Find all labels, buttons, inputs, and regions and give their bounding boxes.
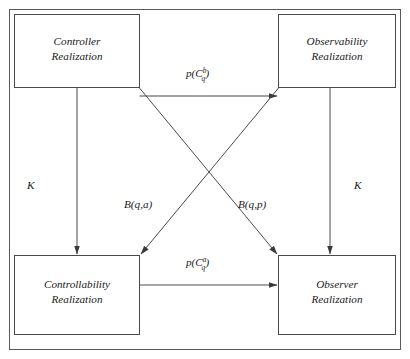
edge-label-controllability-to-observer: p(Caq) [185,255,210,272]
realization-diagram: Controller Realization Observability Rea… [0,0,410,359]
edge-label-p-close: ) [205,67,210,80]
node-observer-label-line1: Observer [316,278,358,290]
edge-label-controller-to-controllability: K [26,179,35,191]
node-controllability-label-line1: Controllability [44,278,110,290]
node-controllability-label-line2: Realization [51,293,103,305]
node-observer-label-line2: Realization [311,293,363,305]
diagram-canvas: Controller Realization Observability Rea… [0,0,410,359]
edge-label-controller-to-observer: B(q,p) [238,198,267,211]
edge-controller-to-observer [140,88,278,254]
edge-observability-to-controllability [141,88,279,254]
edge-label-observability-to-controllability: B(q,a) [124,198,153,211]
node-controller-label-line2: Realization [51,50,103,62]
edge-label-p2-close: ) [205,256,210,269]
edge-label-observability-to-observer: K [353,179,362,191]
node-controller-label-line1: Controller [54,35,101,47]
edge-label-controller-to-observability: p(Cbq) [185,66,210,83]
node-observability-label-line2: Realization [311,50,363,62]
node-observability-label-line1: Observability [307,35,368,47]
